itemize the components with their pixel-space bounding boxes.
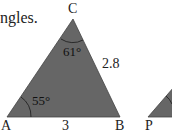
side-bc-label: 2.8 (102, 57, 120, 71)
vertex-a-label: A (1, 119, 11, 133)
side-ab-label: 3 (62, 119, 69, 133)
vertex-c-label: C (68, 2, 77, 16)
vertex-b-label: B (115, 119, 124, 133)
angle-a-label: 55° (32, 94, 50, 107)
heading-text: ngles. (0, 10, 38, 26)
angle-c-label: 61° (63, 45, 81, 58)
vertex-p-label: P (145, 119, 153, 133)
